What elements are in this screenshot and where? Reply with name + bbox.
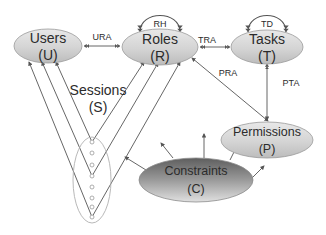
node-permissions: Permissions (P) <box>221 122 313 158</box>
rbac-diagram: Users (U) Roles (R) Tasks (T) Permission… <box>0 0 326 235</box>
tra-label: TRA <box>198 35 216 45</box>
permissions-label: Permissions <box>233 125 301 139</box>
session-dots <box>90 140 94 219</box>
ura-label: URA <box>92 32 111 42</box>
sessions-label: Sessions <box>70 82 127 98</box>
tasks-label: Tasks <box>249 31 285 47</box>
rh-label: RH <box>154 19 167 29</box>
node-constraints: Constraints (C) <box>139 158 253 202</box>
node-tasks: Tasks (T) <box>231 30 303 64</box>
pra-label: PRA <box>219 68 238 78</box>
tasks-abbr: (T) <box>258 48 276 64</box>
users-abbr: (U) <box>38 47 57 63</box>
sessions-abbr: (S) <box>89 99 108 115</box>
roles-abbr: (R) <box>150 48 169 64</box>
pta-label: PTA <box>283 78 300 88</box>
users-label: Users <box>30 30 67 46</box>
sessions-container <box>73 137 111 223</box>
constraints-abbr: (C) <box>187 182 204 196</box>
constraints-label: Constraints <box>164 164 227 178</box>
node-users: Users (U) <box>14 29 82 63</box>
td-label: TD <box>261 19 273 29</box>
permissions-abbr: (P) <box>259 142 276 156</box>
node-roles: Roles (R) <box>122 29 198 65</box>
roles-label: Roles <box>142 31 178 47</box>
